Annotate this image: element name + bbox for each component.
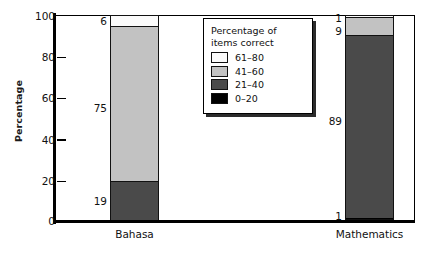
y-tick-mark-80 [57, 57, 66, 58]
data-label-mathematics-41-60: 9 [312, 26, 342, 36]
legend-swatch-41-60 [211, 66, 228, 77]
y-tick-label-40: 40 [11, 135, 55, 145]
y-tick-label-20: 20 [11, 176, 55, 186]
y-tick-label-0: 0 [11, 216, 55, 226]
data-label-bahasa-61-80: 6 [77, 16, 107, 26]
bar-segment-bahasa-41-60 [110, 27, 159, 181]
legend: Percentage of items correct 61–80 41–60 … [203, 18, 313, 114]
legend-title: Percentage of items correct [211, 25, 305, 48]
y-tick-label-60: 60 [11, 93, 55, 103]
data-label-mathematics-21-40: 89 [312, 116, 342, 126]
legend-label-41-60: 41–60 [235, 66, 264, 77]
legend-swatch-0-20 [211, 93, 228, 104]
y-axis-line [53, 13, 56, 224]
bar-segment-bahasa-61-80 [110, 15, 159, 27]
data-label-bahasa-41-60: 75 [77, 103, 107, 113]
data-label-mathematics-61-80: 1 [312, 13, 342, 23]
x-category-label-bahasa: Bahasa [65, 228, 205, 240]
legend-label-61-80: 61–80 [235, 52, 264, 63]
legend-item-61-80: 61–80 [211, 52, 305, 63]
x-axis-line [53, 220, 415, 223]
legend-label-0-20: 0–20 [235, 93, 258, 104]
data-label-mathematics-0-20: 1 [312, 211, 342, 221]
bar-mathematics [345, 15, 394, 221]
y-tick-mark-60 [57, 98, 66, 99]
legend-title-line2: items correct [211, 37, 305, 49]
legend-item-21-40: 21–40 [211, 79, 305, 90]
data-label-bahasa-21-40: 19 [77, 196, 107, 206]
legend-item-0-20: 0–20 [211, 93, 305, 104]
bar-segment-mathematics-0-20 [345, 218, 394, 220]
x-category-label-mathematics: Mathematics [300, 228, 435, 240]
bar-segment-bahasa-21-40 [110, 182, 159, 221]
y-tick-label-100: 100 [11, 11, 55, 21]
stacked-bar-chart: Percentage 100 80 60 40 20 0 6 75 19 Bah… [0, 0, 435, 253]
legend-item-41-60: 41–60 [211, 66, 305, 77]
legend-label-21-40: 21–40 [235, 79, 264, 90]
legend-title-line1: Percentage of [211, 25, 305, 37]
y-tick-mark-20 [57, 181, 66, 182]
bar-segment-mathematics-41-60 [345, 18, 394, 37]
legend-swatch-21-40 [211, 79, 228, 90]
legend-swatch-61-80 [211, 52, 228, 63]
bar-bahasa [110, 15, 159, 221]
y-tick-label-80: 80 [11, 52, 55, 62]
bar-segment-mathematics-21-40 [345, 36, 394, 218]
y-axis-title: Percentage [11, 61, 27, 161]
y-tick-mark-40 [57, 139, 66, 140]
